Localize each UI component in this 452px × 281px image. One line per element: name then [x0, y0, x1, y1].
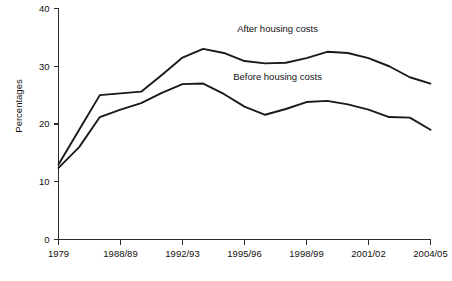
line-chart: 010203040 19791988/891992/931995/961998/… — [0, 0, 452, 281]
y-tick-label: 20 — [39, 118, 50, 129]
x-tick-label: 2004/05 — [413, 248, 447, 259]
series-line-before-housing-costs — [59, 84, 431, 168]
annotation-before-housing-costs: Before housing costs — [233, 71, 322, 82]
series-annotations: After housing costsBefore housing costs — [233, 23, 322, 83]
annotation-after-housing-costs: After housing costs — [237, 23, 318, 34]
y-axis-title-label: Percentages — [13, 79, 24, 133]
y-tick-label: 10 — [39, 176, 50, 187]
chart-container: 010203040 19791988/891992/931995/961998/… — [0, 0, 452, 281]
y-axis: 010203040 — [39, 3, 59, 245]
series-lines — [59, 49, 431, 168]
x-tick-label: 1988/89 — [103, 248, 137, 259]
x-axis: 19791988/891992/931995/961998/992001/022… — [48, 240, 448, 259]
x-tick-label: 1995/96 — [227, 248, 261, 259]
y-tick-label: 40 — [39, 3, 50, 14]
y-tick-label: 0 — [44, 234, 49, 245]
x-tick-label: 1998/99 — [289, 248, 323, 259]
x-tick-label: 2001/02 — [351, 248, 385, 259]
x-tick-label: 1992/93 — [165, 248, 199, 259]
y-axis-title: Percentages — [13, 79, 24, 133]
x-tick-label: 1979 — [48, 248, 69, 259]
y-tick-label: 30 — [39, 61, 50, 72]
